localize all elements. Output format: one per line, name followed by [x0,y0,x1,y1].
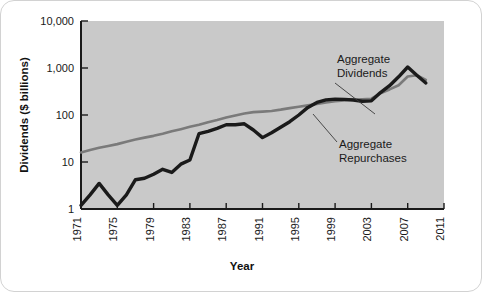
x-axis-tick-label: 1987 [216,217,228,241]
y-axis-tick-label: 100 [56,109,74,121]
x-axis-tick-label: 1999 [325,217,337,241]
figure-card: 10,0001,000100101 1971197519791983198719… [0,0,482,292]
repurchases-annotation-line1: Aggregate [339,138,392,150]
dividends-repurchases-chart: 10,0001,000100101 1971197519791983198719… [1,1,482,292]
x-axis-tick-label: 2011 [434,217,446,241]
x-axis-tick-label: 1971 [71,217,83,241]
y-axis-tick-label: 1,000 [46,62,74,74]
x-axis-tick-label: 1983 [180,217,192,241]
chart-canvas: 10,0001,000100101 1971197519791983198719… [1,1,482,292]
dividends-annotation-line1: Aggregate [337,53,390,65]
dividends-annotation-line2: Dividends [337,67,388,79]
y-axis-title: Dividends ($ billions) [18,57,30,173]
y-axis-tick-label: 10,000 [40,15,74,27]
x-axis-tick-label: 1995 [289,217,301,241]
repurchases-annotation-line2: Repurchases [339,152,407,164]
x-axis-tick-label: 2007 [398,217,410,241]
x-axis-tick-label: 2003 [361,217,373,241]
x-axis-tick-label: 1979 [144,217,156,241]
x-axis-tick-labels: 1971197519791983198719911995199920032007… [71,217,446,241]
x-axis-title: Year [230,260,255,272]
y-axis-tick-labels: 10,0001,000100101 [40,15,74,215]
x-axis-tick-label: 1991 [253,217,265,241]
y-axis-tick-label: 10 [62,156,74,168]
x-axis-tick-label: 1975 [107,217,119,241]
y-axis-tick-label: 1 [68,203,74,215]
